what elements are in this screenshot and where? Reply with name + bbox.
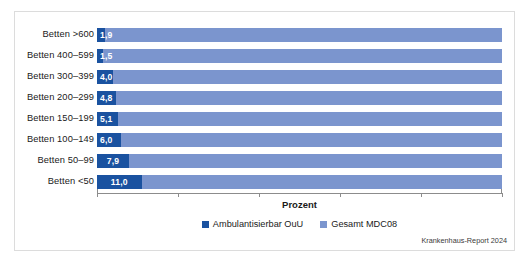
bar-segment-total[interactable] xyxy=(97,91,502,105)
legend-label: Ambulantisierbar OuU xyxy=(213,219,303,229)
bar-segment-total[interactable] xyxy=(97,49,502,63)
x-axis-tick-80 xyxy=(421,193,422,197)
legend-item-1[interactable]: Gesamt MDC08 xyxy=(320,219,397,229)
bar-segment-total[interactable] xyxy=(97,133,502,147)
chart-legend: Ambulantisierbar OuUGesamt MDC08 xyxy=(97,219,502,229)
x-axis-line xyxy=(97,193,502,194)
y-axis-label-4: Betten 150–199 xyxy=(16,113,94,123)
y-axis-label-2: Betten 300–399 xyxy=(16,71,94,81)
bar-value-label: 4,8 xyxy=(100,93,113,103)
legend-swatch-icon xyxy=(320,221,327,228)
x-axis-tick-0 xyxy=(97,193,98,197)
legend-item-0[interactable]: Ambulantisierbar OuU xyxy=(202,219,303,229)
bar-row[interactable]: 6,0 xyxy=(97,133,502,147)
bar-value-label: 7,9 xyxy=(97,156,129,166)
bar-value-label: 1,5 xyxy=(100,51,113,61)
bar-value-label: 4,0 xyxy=(100,72,113,82)
bar-row[interactable]: 4,8 xyxy=(97,91,502,105)
bar-segment-total[interactable] xyxy=(97,175,502,189)
y-axis-label-0: Betten >600 xyxy=(16,29,94,39)
bar-segment-total[interactable] xyxy=(97,70,502,84)
bar-row[interactable]: 7,9 xyxy=(97,154,502,168)
bar-segment-total[interactable] xyxy=(97,28,502,42)
bar-row[interactable]: 5,1 xyxy=(97,112,502,126)
bar-segment-total[interactable] xyxy=(97,154,502,168)
bar-series-container: 1,91,54,04,85,16,07,911,0 xyxy=(97,24,502,192)
bar-value-label: 6,0 xyxy=(100,135,113,145)
bar-value-label: 1,9 xyxy=(100,30,113,40)
bar-row[interactable]: 1,5 xyxy=(97,49,502,63)
bar-segment-total[interactable] xyxy=(97,112,502,126)
bar-value-label: 5,1 xyxy=(100,114,113,124)
chart-plot-area: Betten >600Betten 400–599Betten 300–399B… xyxy=(0,0,529,263)
y-axis-category-labels: Betten >600Betten 400–599Betten 300–399B… xyxy=(10,24,94,192)
source-note: Krankenhaus-Report 2024 xyxy=(421,236,507,245)
x-axis-title: Prozent xyxy=(97,199,502,210)
bar-row[interactable]: 4,0 xyxy=(97,70,502,84)
y-axis-label-1: Betten 400–599 xyxy=(16,50,94,60)
y-axis-label-5: Betten 100–149 xyxy=(16,134,94,144)
bar-row[interactable]: 11,0 xyxy=(97,175,502,189)
y-axis-label-7: Betten <50 xyxy=(16,176,94,186)
legend-swatch-icon xyxy=(202,221,209,228)
y-axis-label-6: Betten 50–99 xyxy=(16,155,94,165)
x-axis-tick-60 xyxy=(340,193,341,197)
x-axis-tick-40 xyxy=(259,193,260,197)
y-axis-label-3: Betten 200–299 xyxy=(16,92,94,102)
legend-label: Gesamt MDC08 xyxy=(331,219,397,229)
bar-row[interactable]: 1,9 xyxy=(97,28,502,42)
bar-value-label: 11,0 xyxy=(97,177,142,187)
x-axis-tick-20 xyxy=(178,193,179,197)
x-axis-tick-100 xyxy=(502,193,503,197)
